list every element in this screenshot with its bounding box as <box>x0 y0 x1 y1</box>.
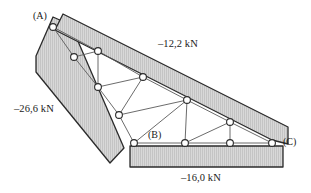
node-A <box>50 24 57 31</box>
truss-drawing <box>0 0 311 193</box>
truss-force-diagram: –12,2 kN –26,6 kN –16,0 kN (A) (B) (C) <box>0 0 311 193</box>
top-chord-force-label: –12,2 kN <box>158 38 198 49</box>
node <box>116 112 123 119</box>
support-label-b: (B) <box>148 129 161 140</box>
bottom-chord-force-label: –16,0 kN <box>181 172 221 183</box>
node <box>227 140 234 147</box>
node <box>95 48 102 55</box>
member <box>119 115 134 143</box>
node <box>182 140 189 147</box>
support-label-c: (C) <box>283 136 296 147</box>
node-C <box>269 140 276 147</box>
node <box>140 74 147 81</box>
node-B <box>131 140 138 147</box>
member <box>119 77 143 115</box>
node <box>71 54 78 61</box>
node <box>184 97 191 104</box>
member <box>185 122 230 143</box>
support-label-a: (A) <box>33 10 47 21</box>
node <box>95 84 102 91</box>
node <box>227 119 234 126</box>
member <box>119 100 187 115</box>
bottom-chord-band <box>130 146 283 167</box>
member <box>185 100 187 143</box>
member <box>98 77 143 87</box>
left-chord-force-label: –26,6 kN <box>14 103 54 114</box>
